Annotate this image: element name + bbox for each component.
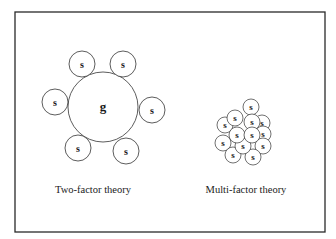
svg-text:s: s — [250, 130, 254, 140]
svg-text:s: s — [250, 117, 254, 127]
svg-text:s: s — [121, 59, 125, 70]
multi-factor-diagram: s s s s s s s s s s s s s Multi-factor t… — [206, 99, 288, 195]
figure-canvas: g s s s s s s Two-factor theory s s s — [0, 0, 336, 239]
svg-text:s: s — [223, 120, 227, 130]
specific-factor-circle: s — [139, 97, 165, 123]
figure-frame — [15, 12, 325, 232]
cluster-circle: s — [244, 127, 260, 143]
svg-text:s: s — [261, 141, 265, 151]
specific-factor-circle: s — [42, 89, 68, 115]
svg-text:s: s — [53, 97, 57, 108]
svg-text:s: s — [221, 138, 225, 148]
svg-text:s: s — [233, 113, 237, 123]
svg-text:s: s — [231, 150, 235, 160]
general-factor-label: g — [100, 99, 107, 114]
svg-text:s: s — [150, 105, 154, 116]
svg-text:s: s — [80, 59, 84, 70]
svg-text:s: s — [261, 129, 265, 139]
svg-text:s: s — [249, 102, 253, 112]
specific-factor-circle: s — [65, 135, 91, 161]
cluster-circle: s — [227, 110, 243, 126]
svg-text:s: s — [251, 152, 255, 162]
specific-factor-circle: s — [110, 51, 136, 77]
two-factor-diagram: g s s s s s s Two-factor theory — [42, 51, 165, 195]
svg-text:s: s — [76, 143, 80, 154]
specific-factor-circle: s — [69, 51, 95, 77]
specific-factor-circle: s — [113, 138, 139, 164]
svg-text:s: s — [235, 130, 239, 140]
svg-text:s: s — [124, 146, 128, 157]
multi-factor-caption: Multi-factor theory — [206, 184, 288, 195]
svg-text:s: s — [241, 141, 245, 151]
cluster-circle: s — [243, 99, 259, 115]
two-factor-caption: Two-factor theory — [55, 184, 132, 195]
cluster-circle: s — [229, 127, 245, 143]
